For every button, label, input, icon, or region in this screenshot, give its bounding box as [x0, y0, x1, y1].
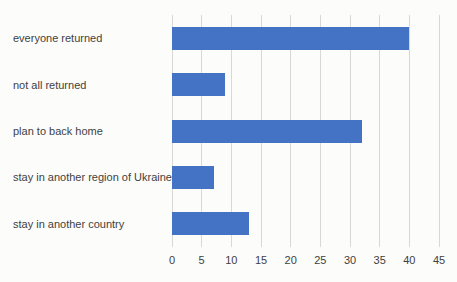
x-tick-label: 20 — [276, 254, 306, 266]
x-tick-label: 35 — [365, 254, 395, 266]
plot-area — [172, 15, 439, 247]
bar-3 — [172, 120, 362, 143]
bar-2 — [172, 73, 225, 96]
x-tick-label: 25 — [305, 254, 335, 266]
category-label: not all returned — [13, 79, 171, 91]
bar-4 — [172, 166, 214, 189]
category-label: stay in another region of Ukraine — [13, 171, 171, 183]
category-label: everyone returned — [13, 32, 171, 44]
x-tick-label: 10 — [216, 254, 246, 266]
horizontal-bar-chart: everyone returnednot all returnedplan to… — [0, 0, 457, 282]
x-tick-label: 40 — [394, 254, 424, 266]
gridline-40 — [409, 15, 410, 247]
x-tick-label: 45 — [424, 254, 454, 266]
x-tick-label: 5 — [187, 254, 217, 266]
x-tick-label: 30 — [335, 254, 365, 266]
category-label: plan to back home — [13, 125, 171, 137]
category-label: stay in another country — [13, 218, 171, 230]
gridline-45 — [439, 15, 440, 247]
bar-5 — [172, 212, 249, 235]
x-tick-label: 15 — [246, 254, 276, 266]
x-tick-label: 0 — [157, 254, 187, 266]
gridline-35 — [379, 15, 380, 247]
bar-1 — [172, 27, 409, 50]
scanned-chart-page: everyone returnednot all returnedplan to… — [0, 0, 457, 282]
